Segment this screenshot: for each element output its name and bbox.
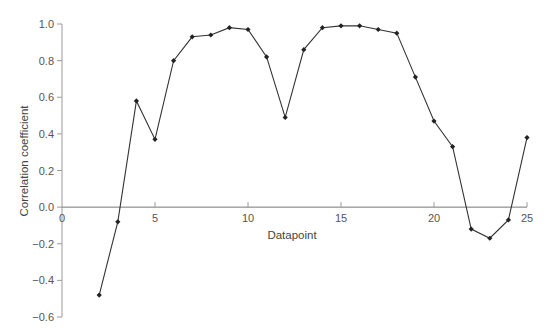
y-tick-label: 0.6 [39, 91, 54, 103]
series-line [99, 26, 527, 295]
diamond-marker-icon [413, 75, 418, 80]
diamond-marker-icon [283, 115, 288, 120]
diamond-marker-icon [208, 32, 213, 37]
diamond-marker-icon [97, 292, 102, 297]
diamond-marker-icon [227, 25, 232, 30]
diamond-marker-icon [357, 23, 362, 28]
diamond-marker-icon [338, 23, 343, 28]
data-series [97, 23, 530, 297]
diamond-marker-icon [152, 137, 157, 142]
y-axis-title: Correlation coefficient [18, 105, 30, 217]
y-tick-label: 0.4 [39, 128, 54, 140]
x-axis: 0510152025 [59, 202, 533, 224]
y-tick-label: −0.4 [32, 274, 54, 286]
y-axis: 1.00.80.60.40.20.0−0.2−0.4−0.6 [32, 18, 62, 323]
x-tick-label: 10 [242, 212, 254, 224]
x-tick-label: 0 [59, 212, 65, 224]
diamond-marker-icon [115, 219, 120, 224]
y-tick-label: 0.2 [39, 165, 54, 177]
line-chart: 1.00.80.60.40.20.0−0.2−0.4−0.6 051015202… [0, 0, 548, 334]
x-tick-label: 5 [152, 212, 158, 224]
y-tick-label: 1.0 [39, 18, 54, 30]
diamond-marker-icon [376, 27, 381, 32]
y-tick-label: 0.8 [39, 55, 54, 67]
diamond-marker-icon [134, 98, 139, 103]
x-axis-title: Datapoint [267, 229, 317, 241]
diamond-marker-icon [524, 135, 529, 140]
diamond-marker-icon [469, 227, 474, 232]
y-tick-label: −0.2 [32, 238, 54, 250]
y-tick-label: −0.6 [32, 311, 54, 323]
x-tick-label: 20 [428, 212, 440, 224]
x-tick-label: 15 [335, 212, 347, 224]
y-tick-label: 0.0 [39, 201, 54, 213]
diamond-marker-icon [394, 31, 399, 36]
x-tick-label: 25 [521, 212, 533, 224]
